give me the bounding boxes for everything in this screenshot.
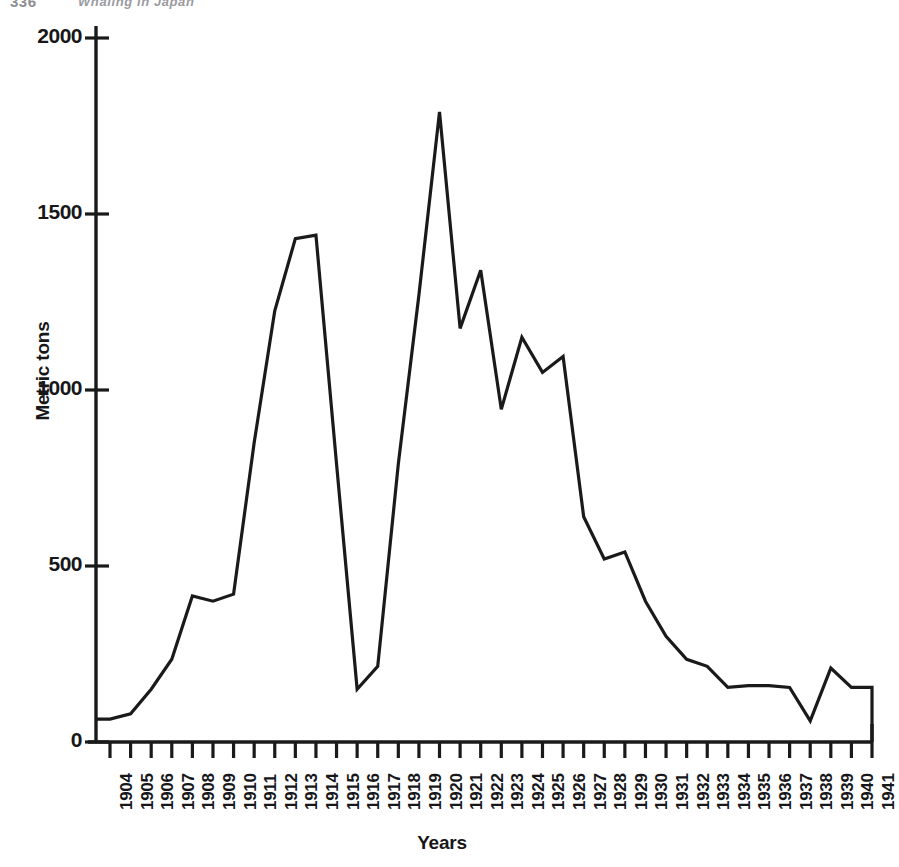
x-tick-label: 1933 bbox=[714, 773, 734, 810]
x-tick-label: 1916 bbox=[364, 773, 384, 810]
x-tick-label: 1919 bbox=[426, 773, 446, 810]
x-tick-label: 1925 bbox=[549, 773, 569, 810]
x-tick-label: 1931 bbox=[673, 773, 693, 810]
x-tick-label: 1926 bbox=[570, 773, 590, 810]
x-tick-label: 1927 bbox=[591, 773, 611, 810]
x-tick-label: 1936 bbox=[776, 773, 796, 810]
x-tick-label: 1918 bbox=[405, 773, 425, 810]
data-series-line bbox=[97, 112, 872, 742]
running-head: 336 Whaling in Japan bbox=[0, 0, 884, 12]
x-tick-label: 1911 bbox=[261, 774, 281, 810]
y-tick-label: 2000 bbox=[0, 24, 82, 48]
axis-lines bbox=[88, 26, 872, 742]
x-tick-label: 1929 bbox=[632, 773, 652, 810]
x-tick-label: 1905 bbox=[138, 773, 158, 810]
x-tick-label: 1928 bbox=[611, 773, 631, 810]
axis-ticks bbox=[85, 38, 872, 758]
x-tick-label: 1930 bbox=[652, 773, 672, 810]
x-tick-label: 1939 bbox=[838, 773, 858, 810]
x-tick-label: 1907 bbox=[179, 773, 199, 810]
x-tick-label: 1923 bbox=[508, 773, 528, 810]
x-tick-label: 1908 bbox=[199, 773, 219, 810]
x-tick-label: 1915 bbox=[344, 773, 364, 810]
x-tick-label: 1917 bbox=[385, 773, 405, 810]
y-tick-label: 1000 bbox=[0, 376, 82, 400]
x-tick-label: 1932 bbox=[694, 773, 714, 810]
x-tick-label: 1940 bbox=[858, 773, 878, 810]
y-tick-label: 500 bbox=[0, 552, 82, 576]
x-tick-label: 1921 bbox=[467, 773, 487, 810]
x-tick-label: 1937 bbox=[797, 773, 817, 810]
y-tick-label: 1500 bbox=[0, 200, 82, 224]
x-tick-label: 1922 bbox=[488, 773, 508, 810]
x-tick-label: 1912 bbox=[282, 773, 302, 810]
running-head-title: Whaling in Japan bbox=[78, 0, 195, 9]
x-tick-label: 1938 bbox=[817, 773, 837, 810]
x-tick-label: 1913 bbox=[302, 773, 322, 810]
x-tick-label: 1906 bbox=[158, 773, 178, 810]
x-axis-label: Years bbox=[0, 832, 884, 854]
x-tick-label: 1924 bbox=[529, 773, 549, 810]
running-head-page-number: 336 bbox=[10, 0, 37, 10]
x-tick-label: 1914 bbox=[323, 773, 343, 810]
x-tick-label: 1920 bbox=[447, 773, 467, 810]
x-tick-label: 1910 bbox=[241, 773, 261, 810]
x-tick-label: 1909 bbox=[220, 773, 240, 810]
y-axis-label: Metric tons bbox=[32, 301, 54, 441]
x-tick-label: 1935 bbox=[755, 773, 775, 810]
x-tick-label: 1904 bbox=[117, 773, 137, 810]
x-tick-label: 1934 bbox=[735, 773, 755, 810]
x-tick-label: 1941 bbox=[879, 773, 899, 810]
y-tick-label: 0 bbox=[0, 728, 82, 752]
